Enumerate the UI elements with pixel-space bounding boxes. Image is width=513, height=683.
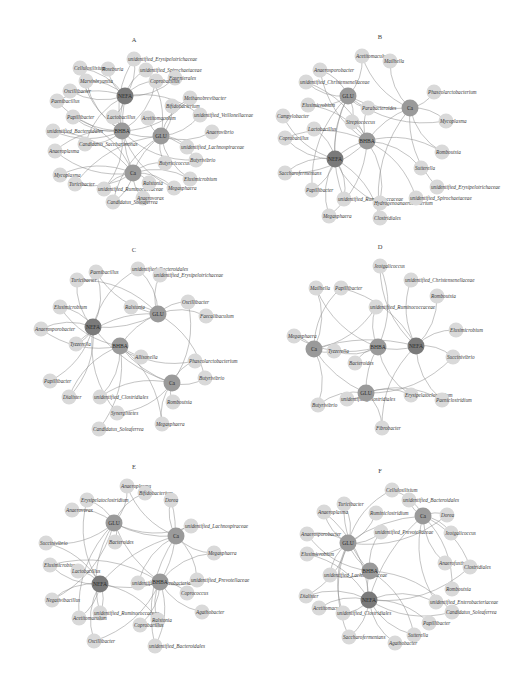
metabolite-node-nefa: NEFA [92, 576, 109, 593]
metabolite-label: BHBA [370, 344, 386, 350]
panel-a: Aunidentified_ErysipelotrichaceaeRosebur… [46, 36, 254, 210]
taxon-label: Romboutsia [166, 399, 192, 405]
taxon-label: unidentified_Clostridiales [94, 394, 148, 400]
taxon-label: Lactobacillus [106, 114, 135, 120]
taxon-label: Candidatus_Soleaferrea [446, 609, 497, 615]
taxon-label: Anaerofustis [438, 560, 465, 566]
taxon-label: unidentified_Bacteroidales [47, 128, 103, 134]
panel-title: E [132, 463, 136, 470]
panel-title: F [378, 467, 382, 474]
taxon-label: Allisonella [134, 354, 158, 360]
taxon-node: unidentified_Erysipelotrichaceae [430, 180, 501, 195]
metabolite-node-nefa: NEFA [117, 88, 134, 105]
taxon-label: unidentified_Bacteroidales [403, 497, 459, 503]
taxon-label: Agathobacter [195, 609, 225, 615]
taxon-label: Paenibacillus [89, 269, 119, 275]
taxon-node: Clostridiales [463, 560, 491, 575]
metabolite-node-glu: GLU [106, 515, 123, 532]
taxon-label: Elusimicrobium [301, 102, 335, 108]
taxon-node: Oscillibacter [181, 295, 211, 310]
taxon-label: Dialister [299, 593, 319, 599]
taxon-label: Phascolarctobacterium [427, 89, 477, 95]
taxon-node: Anaerofustis [438, 556, 466, 571]
taxon-node: Mailhella [309, 281, 331, 296]
taxon-label: Sutterella [408, 632, 428, 638]
taxon-node: Allisonella [134, 350, 158, 365]
taxon-label: Anaerovorax [65, 507, 94, 513]
taxon-label: unidentified_Clostridiales [337, 610, 391, 616]
metabolite-label: GLU [342, 540, 354, 546]
taxon-label: Mailhella [383, 58, 405, 64]
taxon-label: Jeotgalicoccus [374, 263, 405, 269]
metabolite-label: NEFA [362, 597, 376, 603]
taxon-label: Campylobacter [277, 113, 310, 119]
metabolite-node-ca: Ca [415, 508, 432, 525]
taxon-label: Jeotgalicoccus [445, 530, 476, 536]
taxon-label: Elusimicrobium [449, 327, 483, 333]
metabolite-node-glu: GLU [340, 535, 357, 552]
taxon-label: Megasphaera [207, 550, 237, 556]
taxon-label: unidentified_Prevotellaceae [191, 577, 250, 583]
taxon-label: Saccharofermentans [343, 634, 385, 640]
taxon-node: Butyrivibrio [189, 153, 216, 168]
edge [133, 169, 190, 179]
metabolite-node-ca: Ca [164, 375, 181, 392]
edge [367, 141, 416, 198]
taxon-label: Saccharofermentans [279, 170, 321, 176]
panel-title: B [378, 33, 383, 40]
metabolite-node-bhba: BHBA [112, 338, 129, 355]
taxon-node: unidentified_Lachnospiraceae [180, 140, 245, 155]
metabolite-label: GLU [342, 93, 354, 99]
metabolite-label: GLU [155, 133, 167, 139]
taxon-node: unidentified_Bacteroidales [402, 493, 460, 508]
edge [369, 600, 414, 635]
taxon-label: Acetitomaculum [72, 615, 107, 621]
taxon-label: Bacteroides [109, 539, 134, 545]
taxon-label: Tyzzerella [70, 341, 91, 347]
metabolite-label: NEFA [328, 156, 342, 162]
taxon-label: unidentified_Enterobacteriaceae [430, 599, 499, 605]
taxon-node: Succinivibrio [39, 536, 69, 551]
taxon-node: Candidatus_Soleaferrea [445, 605, 497, 620]
taxon-node: Dialister [62, 390, 83, 405]
edge [335, 159, 380, 218]
taxon-node: Elusimicrobium [300, 547, 335, 562]
taxon-label: Romboutsia [445, 586, 471, 592]
metabolite-label: Ca [311, 346, 318, 352]
taxon-label: unidentified_Ruminococcaceae [370, 304, 436, 310]
edge [367, 141, 382, 203]
taxon-label: Oscillibacter [88, 638, 116, 644]
taxon-node: Mailhella [383, 54, 405, 69]
taxon-node: Synergistetes [110, 406, 139, 421]
taxon-label: Paenibacillus [50, 98, 80, 104]
taxon-node: Tyzzerella [327, 344, 350, 359]
taxon-node: Butyrivibrio [311, 398, 338, 413]
taxon-node: Papillibacter [43, 374, 73, 389]
taxon-node: Phascolarctobacterium [427, 85, 477, 100]
taxon-label: Coprobacillus [279, 135, 309, 141]
taxon-label: Dorea [164, 497, 178, 503]
taxon-label: Anaeroplasma [48, 148, 79, 154]
taxon-label: Methanobrevibacter [183, 95, 227, 101]
taxon-node: Turicibacter [68, 177, 96, 192]
taxon-label: unidentified_Erysipelotrichaceae [128, 56, 198, 62]
taxon-node: unidentified_Erysipelotrichaceae [127, 52, 198, 67]
taxon-node: Butyricicoccus [158, 156, 190, 171]
taxon-node: Coprococcus [180, 586, 209, 601]
taxon-label: Tyzzerella [328, 348, 349, 354]
panel-title: A [132, 36, 137, 43]
metabolite-node-bhba: BHBA [152, 574, 169, 591]
metabolite-label: Ca [169, 380, 176, 386]
taxon-label: Anaerovibrio [205, 129, 234, 135]
taxon-label: unidentified_Christensenellaceae [300, 79, 370, 85]
taxon-label: Ralstonia [124, 304, 145, 310]
metabolite-label: BHBA [114, 128, 130, 134]
edge [366, 357, 453, 393]
metabolite-node-nefa: NEFA [408, 338, 425, 355]
taxon-node: Candidatus_Soleaferrea [92, 422, 144, 437]
taxon-label: Ruminiclostridium [369, 510, 409, 516]
taxon-label: unidentified_Erysipelotrichaceae [154, 272, 224, 278]
taxon-label: Fibrobacter [375, 425, 402, 431]
edge [93, 314, 158, 328]
taxon-label: Butyrivibrio [312, 402, 338, 408]
